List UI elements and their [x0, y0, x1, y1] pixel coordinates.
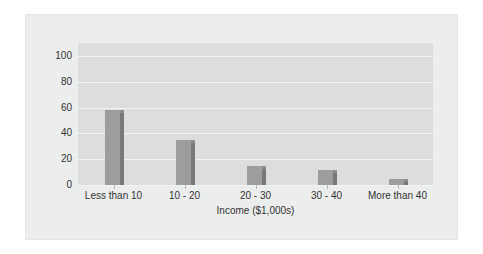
bar-side-face [404, 182, 408, 185]
y-tick-label-40: 40 [32, 128, 72, 138]
x-tick-label: 10 - 20 [169, 190, 200, 202]
bar-side-face [262, 169, 266, 185]
x-tick-mark [327, 185, 328, 189]
x-axis-category-labels: Less than 1010 - 2020 - 3030 - 40More th… [78, 190, 433, 204]
bar-top-face [120, 110, 124, 113]
bar-top-face [262, 166, 266, 169]
x-tick-mark [185, 185, 186, 189]
bar-group [389, 43, 408, 185]
bar [105, 110, 120, 185]
y-tick-label-100: 100 [32, 51, 72, 61]
bar-top-face [404, 179, 408, 182]
y-tick-label-80: 80 [32, 77, 72, 87]
bar [389, 179, 404, 185]
x-tick-mark [114, 185, 115, 189]
x-axis-title: Income ($1,000s) [78, 205, 433, 217]
y-tick-label-60: 60 [32, 103, 72, 113]
bar [176, 140, 191, 185]
x-tick-label: More than 40 [368, 190, 427, 202]
y-tick-label-20: 20 [32, 154, 72, 164]
bar-side-face [191, 143, 195, 185]
y-tick-label-0: 0 [32, 180, 72, 190]
x-tick-label: 20 - 30 [240, 190, 271, 202]
bar-top-face [333, 170, 337, 173]
x-tick-label: Less than 10 [85, 190, 142, 202]
bar-group [318, 43, 337, 185]
bar [318, 170, 333, 185]
bar-chart-figure: 020406080100 Less than 1010 - 2020 - 303… [0, 0, 483, 254]
bar-side-face [333, 173, 337, 185]
bar-group [105, 43, 124, 185]
bar [247, 166, 262, 185]
bars-layer [78, 43, 433, 185]
bar-group [247, 43, 266, 185]
y-axis-tick-labels: 020406080100 [28, 43, 72, 185]
x-tick-mark [398, 185, 399, 189]
x-tick-label: 30 - 40 [311, 190, 342, 202]
bar-top-face [191, 140, 195, 143]
x-tick-mark [256, 185, 257, 189]
bar-side-face [120, 113, 124, 185]
bar-group [176, 43, 195, 185]
